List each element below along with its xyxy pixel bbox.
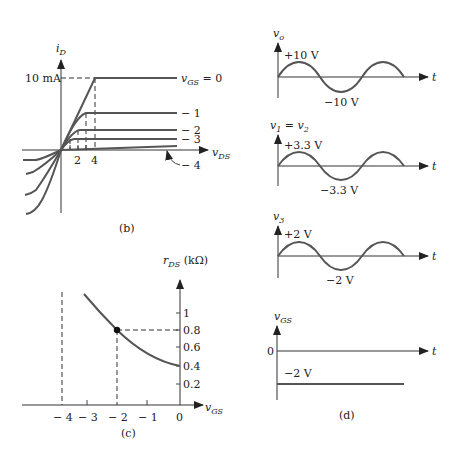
c-y-tick-0.4: 0.4 <box>183 360 201 373</box>
caption-c: (c) <box>121 427 136 440</box>
waveform-v3: v3 t +2 V −2 V <box>273 210 437 287</box>
vo-trough-label: −10 V <box>324 96 360 109</box>
vo-peak-label: +10 V <box>284 49 320 62</box>
caption-d: (d) <box>339 409 355 422</box>
b-arrow-vgs-4 <box>167 151 180 165</box>
vgs-level-label: −2 V <box>284 367 313 380</box>
waveform-vo: vo t +10 V −10 V <box>273 27 437 109</box>
b-x-label: vDS <box>212 146 231 161</box>
svg-text:v1 = v2: v1 = v2 <box>270 119 309 134</box>
panel-b-output-characteristics: iD vDS 10 mA 2 4 vGS = 0 − 1 − 2 − 3 − 4 <box>22 42 231 235</box>
c-y-tick-0.2: 0.2 <box>183 378 201 391</box>
c-x-tick-neg1: − 1 <box>138 411 158 424</box>
vgs-zero-label: 0 <box>267 345 274 358</box>
b-label-vgs-3: − 3 <box>181 133 201 146</box>
b-neg-curve-2 <box>26 150 61 174</box>
v1-trough-label: −3.3 V <box>320 184 359 197</box>
svg-text:vGS: vGS <box>274 310 293 325</box>
c-y-tick-0.6: 0.6 <box>183 341 201 354</box>
c-y-tick-1: 1 <box>183 307 190 320</box>
v1-peak-label: +3.3 V <box>284 139 323 152</box>
c-x-tick-0: 0 <box>176 411 183 424</box>
c-operating-point <box>114 327 120 333</box>
svg-text:t: t <box>432 71 437 84</box>
b-y-label: iD <box>56 42 67 57</box>
c-y-tick-0.8: 0.8 <box>183 324 201 337</box>
panel-d-waveforms: vo t +10 V −10 V v1 = v2 t +3.3 V −3.3 V… <box>267 27 437 422</box>
b-10ma-label: 10 mA <box>25 72 62 85</box>
b-x-tick-2: 2 <box>74 154 81 167</box>
b-label-vgs-4: − 4 <box>181 159 201 172</box>
svg-text:t: t <box>432 160 437 173</box>
waveform-vgs: vGS 0 t −2 V <box>267 310 437 400</box>
b-label-vgs-0: vGS = 0 <box>181 72 222 87</box>
c-y-label: rDS (kΩ) <box>163 254 208 269</box>
c-x-label: vGS <box>205 401 224 416</box>
c-x-tick-neg4: − 4 <box>53 411 73 424</box>
c-x-tick-neg2: − 2 <box>108 411 128 424</box>
c-x-tick-neg3: − 3 <box>78 411 98 424</box>
v3-peak-label: +2 V <box>284 228 313 241</box>
svg-text:t: t <box>432 345 437 358</box>
svg-text:v3: v3 <box>273 210 284 225</box>
caption-b: (b) <box>119 222 135 235</box>
svg-text:vo: vo <box>273 27 284 42</box>
figure-canvas: iD vDS 10 mA 2 4 vGS = 0 − 1 − 2 − 3 − 4 <box>0 0 455 458</box>
svg-text:t: t <box>432 250 437 263</box>
b-label-vgs-1: − 1 <box>181 107 201 120</box>
panel-c-rds-vs-vgs: rDS (kΩ) vGS 1 0.8 0.6 0.4 0.2 − 4 − 3 −… <box>22 254 224 440</box>
v3-trough-label: −2 V <box>326 274 355 287</box>
b-x-tick-4: 4 <box>91 154 98 167</box>
waveform-v1-v2: v1 = v2 t +3.3 V −3.3 V <box>270 119 437 197</box>
